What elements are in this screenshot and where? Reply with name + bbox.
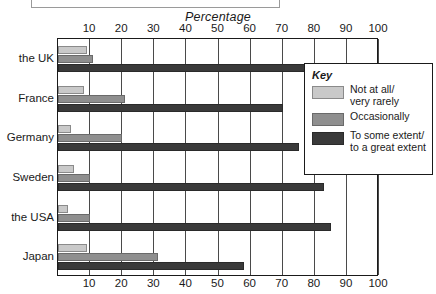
category-label: Germany — [7, 131, 54, 143]
gridline — [89, 39, 90, 275]
x-tick-label: 60 — [243, 22, 256, 34]
x-tick-label: 70 — [275, 277, 288, 289]
x-tick-label: 60 — [243, 277, 256, 289]
bar-sweden-series-2 — [58, 183, 324, 191]
x-tick-label: 10 — [83, 22, 96, 34]
x-tick-label: 80 — [307, 277, 320, 289]
bar-germany-series-2 — [58, 143, 299, 151]
x-tick-label: 70 — [275, 22, 288, 34]
x-tick-label: 30 — [147, 22, 160, 34]
bar-the-uk-series-1 — [58, 55, 93, 63]
legend-item-label: To some extent/ to a great extent — [350, 130, 426, 153]
legend-item-label: Not at all/ very rarely — [350, 84, 399, 107]
legend-swatch-icon — [312, 86, 344, 99]
caption-box — [31, 0, 280, 8]
gridline — [282, 39, 283, 275]
category-label: France — [18, 92, 54, 104]
bar-the-uk-series-2 — [58, 64, 305, 72]
x-tick-label: 80 — [307, 22, 320, 34]
x-tick-label: 40 — [179, 22, 192, 34]
legend-item: To some extent/ to a great extent — [312, 130, 426, 153]
x-tick-label: 30 — [147, 277, 160, 289]
bar-sweden-series-0 — [58, 165, 74, 173]
gridline — [121, 39, 122, 275]
x-tick-label: 40 — [179, 277, 192, 289]
bar-the-usa-series-1 — [58, 214, 90, 222]
bar-france-series-0 — [58, 86, 84, 94]
bar-france-series-1 — [58, 95, 125, 103]
legend-swatch-icon — [312, 132, 344, 145]
bar-the-usa-series-0 — [58, 205, 68, 213]
gridline — [185, 39, 186, 275]
legend-item: Not at all/ very rarely — [312, 84, 426, 107]
x-tick-label: 100 — [368, 277, 387, 289]
category-label: Sweden — [12, 171, 54, 183]
legend-title: Key — [312, 69, 426, 81]
x-tick-label: 20 — [115, 277, 128, 289]
bar-japan-series-1 — [58, 253, 158, 261]
x-tick-label: 50 — [211, 277, 224, 289]
category-label: the USA — [11, 211, 54, 223]
bar-the-uk-series-0 — [58, 46, 87, 54]
bar-france-series-2 — [58, 104, 283, 112]
chart-root: Percentage 102030405060708090100 1020304… — [0, 0, 436, 294]
legend-item-label: Occasionally — [350, 111, 410, 123]
bar-germany-series-0 — [58, 125, 71, 133]
bar-the-usa-series-2 — [58, 223, 331, 231]
bar-sweden-series-1 — [58, 174, 90, 182]
chart-legend: Key Not at all/ very rarely Occasionally… — [304, 63, 433, 175]
category-label: Japan — [23, 250, 54, 262]
bar-japan-series-2 — [58, 262, 244, 270]
x-tick-label: 10 — [83, 277, 96, 289]
gridline — [218, 39, 219, 275]
x-axis-ticks-top: 102030405060708090100 — [0, 22, 436, 36]
legend-swatch-icon — [312, 113, 344, 126]
x-axis-ticks-bottom: 102030405060708090100 — [0, 277, 436, 291]
x-tick-label: 90 — [339, 277, 352, 289]
category-label: the UK — [19, 52, 54, 64]
x-tick-label: 50 — [211, 22, 224, 34]
bar-germany-series-1 — [58, 134, 122, 142]
gridline — [153, 39, 154, 275]
legend-item: Occasionally — [312, 111, 426, 126]
gridline — [250, 39, 251, 275]
x-tick-label: 90 — [339, 22, 352, 34]
x-tick-label: 100 — [368, 22, 387, 34]
bar-japan-series-0 — [58, 244, 87, 252]
x-tick-label: 20 — [115, 22, 128, 34]
